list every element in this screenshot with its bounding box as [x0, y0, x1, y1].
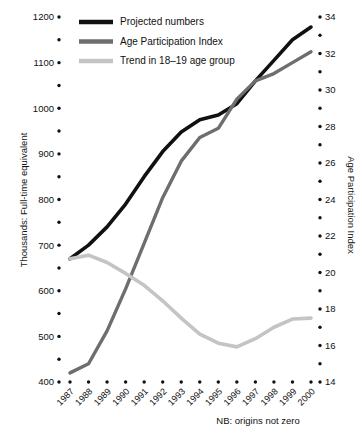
y2-tick-major: [318, 271, 321, 274]
y-axis-left-label: 900: [38, 148, 54, 159]
y-tick-minor: [57, 175, 60, 178]
y2-tick-minor: [318, 326, 321, 329]
y2-tick-major: [318, 15, 321, 18]
y-axis-right-label: 20: [325, 267, 336, 278]
x-axis-label: 1992: [147, 386, 168, 407]
legend-label-2: Trend in 18–19 age group: [120, 55, 235, 66]
legend-label-1: Age Participation Index: [120, 36, 223, 47]
x-axis-label: 1993: [166, 386, 187, 407]
y2-tick-major: [318, 307, 321, 310]
y2-tick-minor: [318, 107, 321, 110]
chart-container: 400500600700800900100011001200 141618202…: [0, 0, 362, 433]
y2-tick-minor: [318, 216, 321, 219]
legend-label-0: Projected numbers: [120, 16, 204, 27]
y2-tick-major: [318, 344, 321, 347]
y-tick-major: [57, 107, 60, 110]
x-axis-label: 1998: [259, 386, 280, 407]
y-tick-minor: [57, 84, 60, 87]
y-tick-minor: [57, 221, 60, 224]
x-axis-label: 1996: [222, 386, 243, 407]
x-tick: [254, 380, 257, 383]
y2-tick-major: [318, 125, 321, 128]
x-tick: [198, 380, 201, 383]
y2-tick-minor: [318, 362, 321, 365]
y2-tick-minor: [318, 289, 321, 292]
y-axis-right-label: 14: [325, 376, 336, 387]
y2-tick-major: [318, 88, 321, 91]
y-axis-left-label: 1100: [34, 57, 54, 68]
y2-tick-major: [318, 161, 321, 164]
y-axis-left-label: 600: [38, 285, 54, 296]
x-axis-label: 1991: [129, 386, 150, 407]
y-axis-right-label: 26: [325, 157, 336, 168]
y-tick-major: [57, 15, 60, 18]
y-axis-right-title: Age Participation Index: [346, 156, 357, 254]
y-tick-minor: [57, 266, 60, 269]
y-tick-minor: [57, 312, 60, 315]
y-axis-right-label: 28: [325, 121, 336, 132]
x-tick: [291, 380, 294, 383]
y-axis-left-label: 700: [38, 240, 54, 251]
x-tick: [68, 380, 71, 383]
x-tick: [309, 380, 312, 383]
data-series-group: [70, 27, 311, 373]
y-tick-minor: [57, 129, 60, 132]
x-axis-label: 1997: [240, 386, 261, 407]
y-axis-left-label: 500: [38, 331, 54, 342]
x-axis-label: 1995: [203, 386, 224, 407]
y-axis-left-label: 1200: [33, 11, 54, 22]
y2-tick-minor: [318, 143, 321, 146]
y2-tick-major: [318, 380, 321, 383]
line-chart: 400500600700800900100011001200 141618202…: [0, 0, 362, 433]
y-axis-left-ticks: 400500600700800900100011001200: [33, 11, 61, 387]
chart-legend: Projected numbersAge Participation Index…: [79, 16, 235, 66]
y-axis-right-ticks: 1416182022242628303234: [318, 11, 335, 387]
y2-tick-major: [318, 198, 321, 201]
y2-tick-minor: [318, 253, 321, 256]
y-tick-major: [57, 335, 60, 338]
y-tick-major: [57, 289, 60, 292]
x-tick: [124, 380, 127, 383]
x-tick: [180, 380, 183, 383]
y-axis-right-label: 22: [325, 230, 336, 241]
y-tick-major: [57, 61, 60, 64]
x-axis-label: 1994: [184, 386, 205, 407]
x-tick: [161, 380, 164, 383]
y-tick-major: [57, 243, 60, 246]
y-axis-left-title: Thousands: Full-time equivalent: [18, 132, 29, 267]
x-axis-ticks: 1987198819891990199119921993199419951996…: [55, 380, 317, 407]
y2-tick-minor: [318, 180, 321, 183]
x-tick: [272, 380, 275, 383]
x-axis-label: 1988: [73, 386, 94, 407]
y-tick-minor: [57, 38, 60, 41]
x-axis-label: 2000: [296, 386, 317, 407]
y-axis-left-label: 800: [38, 194, 54, 205]
x-axis-label: 1989: [92, 386, 113, 407]
y-axis-left-label: 400: [38, 376, 54, 387]
y-axis-right-label: 18: [325, 303, 336, 314]
y-tick-minor: [57, 357, 60, 360]
y-axis-right-label: 30: [325, 84, 336, 95]
x-tick: [142, 380, 145, 383]
x-tick: [87, 380, 90, 383]
y-tick-major: [57, 198, 60, 201]
y2-tick-minor: [318, 34, 321, 37]
x-axis-label: 1990: [110, 386, 131, 407]
x-axis-label: 1987: [55, 386, 76, 407]
y-axis-right-label: 16: [325, 340, 336, 351]
x-tick: [217, 380, 220, 383]
y-axis-right-label: 34: [325, 11, 336, 22]
y2-tick-major: [318, 52, 321, 55]
x-axis-label: 1999: [277, 386, 298, 407]
chart-note: NB: origins not zero: [216, 415, 299, 426]
y2-tick-minor: [318, 70, 321, 73]
x-tick: [235, 380, 238, 383]
x-tick: [105, 380, 108, 383]
y-axis-right-label: 24: [325, 194, 336, 205]
y-tick-major: [57, 152, 60, 155]
y-axis-left-label: 1000: [33, 103, 54, 114]
y-tick-major: [57, 380, 60, 383]
y-axis-right-label: 32: [325, 48, 336, 59]
y2-tick-major: [318, 234, 321, 237]
